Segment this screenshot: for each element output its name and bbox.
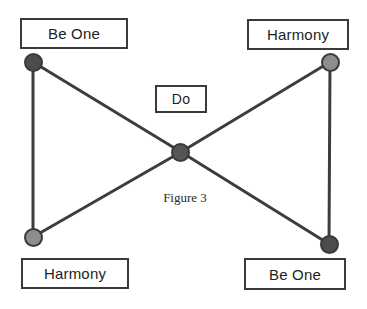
label-box-bottom-right-text: Be One xyxy=(269,267,321,282)
label-box-center-text: Do xyxy=(172,92,190,106)
label-box-center: Do xyxy=(155,85,207,113)
center-node xyxy=(171,143,190,162)
bottom-left-node xyxy=(24,228,43,247)
figure-3-diagram: Be One Harmony Do Harmony Be One Figure … xyxy=(0,0,367,309)
label-box-bottom-left-text: Harmony xyxy=(44,266,106,281)
bottom-right-node xyxy=(320,235,339,254)
top-right-node xyxy=(321,53,340,72)
label-box-top-right: Harmony xyxy=(247,19,349,50)
figure-caption: Figure 3 xyxy=(150,190,220,206)
label-box-top-left: Be One xyxy=(20,18,128,49)
label-box-bottom-left: Harmony xyxy=(21,258,129,289)
label-box-top-right-text: Harmony xyxy=(267,27,329,42)
label-box-top-left-text: Be One xyxy=(48,26,100,41)
top-left-node xyxy=(24,53,43,72)
edge-top-right-to-bottom-right xyxy=(329,62,330,244)
label-box-bottom-right: Be One xyxy=(244,258,346,290)
